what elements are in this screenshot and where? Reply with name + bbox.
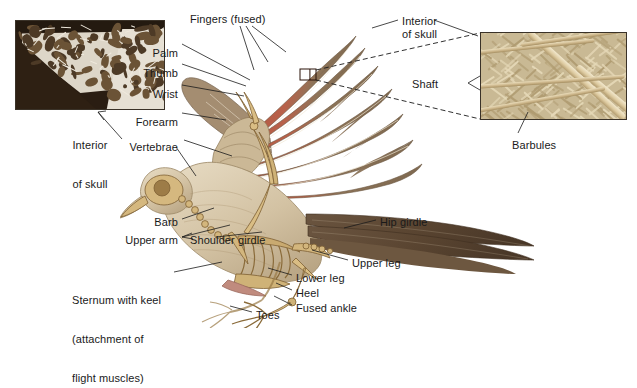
label-interior-of-skull-line1: Interior [50, 139, 130, 152]
label-hip-girdle: Hip girdle [380, 216, 427, 229]
label-toes: Toes [256, 309, 280, 322]
label-lower-leg: Lower leg [296, 272, 345, 285]
label-upper-leg: Upper leg [352, 257, 401, 270]
label-wrist: Wrist [98, 88, 178, 101]
label-sternum-with-keel: Sternum with keel (attachment of flight … [72, 268, 161, 388]
label-barb: Barbules [512, 139, 556, 152]
label-sternum-line1: Sternum with keel [72, 294, 161, 307]
label-palm: Palm [98, 47, 178, 60]
label-fingers-fused: Fingers (fused) [190, 13, 265, 26]
label-upper-arm: Barb [98, 216, 178, 229]
label-heel: Heel [296, 287, 319, 300]
label-shoulder-girdle: Upper arm [68, 234, 178, 247]
label-shaft: Interior of skull [402, 15, 437, 41]
label-barbules: Shaft [412, 78, 438, 91]
label-interior-of-skull: Interior of skull [50, 113, 130, 217]
label-thumb: Thumb [98, 67, 178, 80]
label-sternum-line3: flight muscles) [72, 372, 161, 385]
label-interior-of-skull-line2: of skull [50, 178, 130, 191]
label-fused-ankle: Fused ankle [296, 302, 357, 315]
label-sternum-line2: (attachment of [72, 333, 161, 346]
label-ribs: Shoulder girdle [190, 234, 266, 247]
